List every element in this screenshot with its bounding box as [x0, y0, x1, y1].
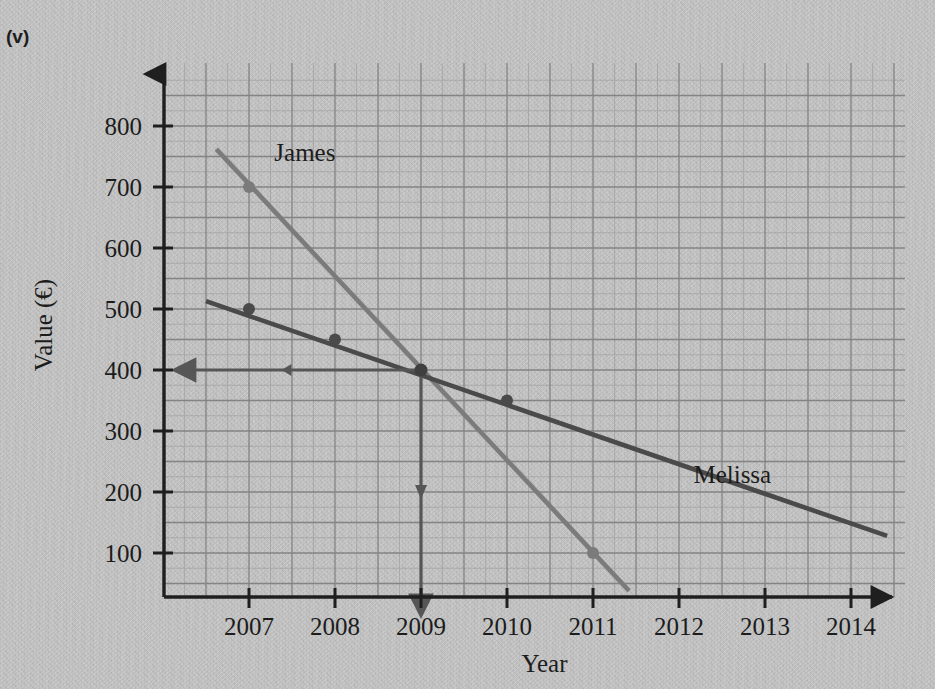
x-axis-tick-label-2013: 2013	[740, 613, 790, 640]
y-axis-tick-label-700: 700	[105, 174, 143, 201]
y-axis-tick-label-500: 500	[105, 296, 143, 323]
axis-labels-layer: 1002003004005006007008002007200820092010…	[30, 113, 877, 677]
y-axis-title: Value (€)	[30, 279, 58, 371]
data-point-melissa-2007	[243, 303, 255, 315]
x-axis-tick-label-2011: 2011	[568, 613, 617, 640]
data-point-james-2011	[587, 547, 599, 559]
data-point-melissa-2008	[329, 334, 341, 346]
x-axis-tick-label-2009: 2009	[396, 613, 446, 640]
graph-page: (v) JamesMelissa 10020030040050060070080…	[0, 0, 935, 689]
x-axis-tick-label-2014: 2014	[826, 613, 877, 640]
y-axis-tick-label-600: 600	[105, 235, 143, 262]
x-axis-tick-label-2012: 2012	[654, 613, 704, 640]
y-axis-tick-label-800: 800	[105, 113, 143, 140]
x-axis-tick-label-2010: 2010	[482, 613, 532, 640]
horizontal-construction-arrow-head	[281, 364, 291, 376]
y-axis-tick-label-100: 100	[105, 540, 143, 567]
axis-ticks-layer	[153, 126, 851, 608]
x-axis-tick-label-2008: 2008	[310, 613, 360, 640]
value-vs-year-line-chart: JamesMelissa 100200300400500600700800200…	[0, 0, 935, 689]
y-axis-tick-label-200: 200	[105, 479, 143, 506]
axes-layer	[164, 74, 892, 597]
x-axis-tick-label-2007: 2007	[224, 613, 274, 640]
series-label-melissa: Melissa	[693, 461, 771, 488]
x-axis-title: Year	[521, 650, 568, 677]
intersection-point	[415, 364, 428, 377]
series-label-james: James	[274, 139, 335, 166]
data-point-melissa-2010	[501, 395, 513, 407]
y-axis-tick-label-300: 300	[105, 418, 143, 445]
y-axis-tick-label-400: 400	[105, 357, 143, 384]
data-point-james-2007	[243, 181, 255, 193]
